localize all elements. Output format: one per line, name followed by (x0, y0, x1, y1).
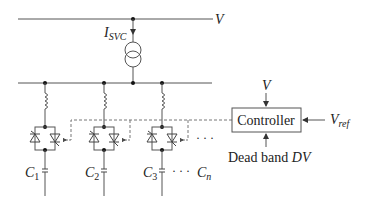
branch-ellipsis: · · · (196, 131, 214, 145)
cap-ellipsis: · · · (172, 164, 190, 178)
svc-diagram: V ISVC · · · C1 C2 C3 · · · Cn Controlle… (0, 0, 370, 205)
controller-input-v: V (262, 78, 272, 93)
dead-band-label: Dead band DV (228, 150, 312, 165)
cap-label-1: C1 (25, 165, 39, 182)
isvc-label: ISVC (103, 25, 127, 42)
cap-label-n: Cn (197, 165, 211, 182)
cap-label-2: C2 (85, 165, 99, 182)
controller-label: Controller (237, 113, 295, 128)
transformer-icon (125, 42, 141, 67)
controller-input-vref: Vref (330, 112, 351, 129)
bus-voltage-label: V (215, 12, 225, 27)
cap-label-3: C3 (143, 165, 157, 182)
